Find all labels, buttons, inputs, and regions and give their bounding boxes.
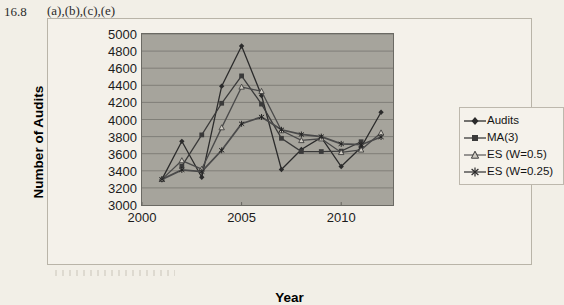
legend-item-es-05: ES (W=0.5) [463, 146, 559, 163]
legend-label: MA(3) [487, 132, 518, 144]
scan-artifact [55, 270, 175, 276]
exercise-number: 16.8 [4, 4, 27, 20]
plot-svg [142, 34, 393, 205]
y-axis-tick: 4200 [108, 96, 137, 109]
y-axis-tick: 4400 [108, 79, 137, 92]
y-axis-tick: 3600 [108, 147, 137, 160]
x-axis-tick: 2000 [128, 211, 157, 224]
legend-label: Audits [487, 115, 519, 127]
y-axis-tick: 3200 [108, 181, 137, 194]
chart-legend: Audits MA(3) ES (W=0.5) [459, 107, 564, 185]
legend-label: ES (W=0.25) [487, 166, 553, 178]
plot-area: 3000320034003600380040004200440046004800… [141, 33, 394, 206]
filled-diamond-icon [463, 114, 487, 128]
legend-item-es-025: ES (W=0.25) [463, 163, 559, 180]
x-axis-title: Year [275, 290, 304, 305]
exercise-parts: (a),(b),(c),(e) [47, 3, 115, 19]
y-axis-tick: 3800 [108, 130, 137, 143]
y-axis-title: Number of Audits [31, 85, 46, 198]
legend-item-audits: Audits [463, 112, 559, 129]
y-axis-tick: 5000 [108, 28, 137, 41]
x-axis-tick: 2005 [227, 211, 256, 224]
y-axis-tick: 4600 [108, 62, 137, 75]
filled-square-icon [463, 131, 487, 145]
chart-frame: 3000320034003600380040004200440046004800… [47, 18, 532, 265]
y-axis-tick: 4800 [108, 45, 137, 58]
star-icon [463, 165, 487, 179]
open-triangle-icon [463, 148, 487, 162]
legend-item-ma3: MA(3) [463, 129, 559, 146]
x-axis-tick: 2010 [327, 211, 356, 224]
legend-label: ES (W=0.5) [487, 149, 547, 161]
y-axis-tick: 4000 [108, 113, 137, 126]
y-axis-tick: 3400 [108, 164, 137, 177]
